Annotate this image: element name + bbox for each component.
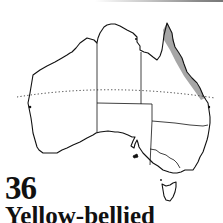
coast-marker-north (135, 38, 137, 40)
coast-marker-east (208, 106, 210, 108)
species-number: 36 (5, 172, 36, 205)
species-name: Yellow-bellied (5, 202, 155, 223)
coast-marker-west (29, 106, 32, 109)
small-island-dot (160, 179, 162, 181)
kangaroo-island (133, 154, 138, 158)
species-range-area (163, 23, 205, 100)
tropic-of-capricorn-line (17, 90, 215, 98)
mainland-coastline (28, 23, 210, 173)
state-borders (97, 43, 208, 168)
tasmania-coastline (162, 182, 176, 201)
